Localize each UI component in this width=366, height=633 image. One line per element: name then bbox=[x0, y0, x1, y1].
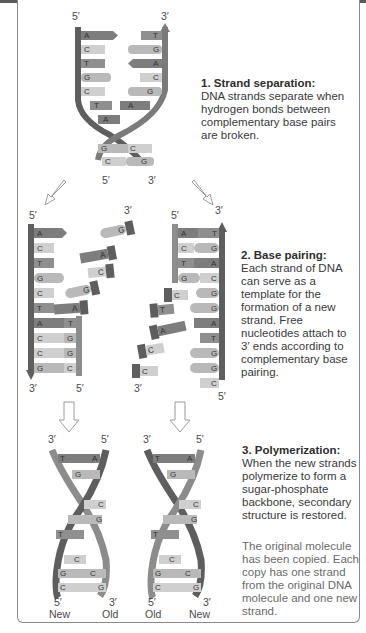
svg-text:T: T bbox=[94, 101, 99, 110]
svg-text:G: G bbox=[153, 45, 159, 54]
stage3-right-old-label: Old bbox=[145, 608, 162, 620]
svg-text:A: A bbox=[103, 115, 109, 124]
svg-text:G: G bbox=[96, 515, 102, 524]
svg-text:G: G bbox=[211, 349, 217, 358]
svg-text:A: A bbox=[211, 319, 217, 328]
arrow-down-right-icon bbox=[170, 402, 190, 432]
svg-text:C: C bbox=[84, 87, 90, 96]
svg-text:C: C bbox=[181, 244, 187, 253]
svg-text:G: G bbox=[67, 349, 73, 358]
svg-text:A: A bbox=[153, 59, 159, 68]
stage3-left-old-label: Old bbox=[102, 608, 119, 620]
stage3-right-three-prime: 3′ bbox=[143, 433, 151, 445]
stage1-molecule: 5′ 3′ A C T G C T T G A C G A A G C C G … bbox=[72, 10, 170, 186]
svg-text:A: A bbox=[211, 259, 217, 268]
svg-text:T: T bbox=[153, 530, 158, 539]
svg-text:C: C bbox=[84, 45, 90, 54]
stage3-left-new-label: New bbox=[49, 608, 70, 620]
svg-text:G: G bbox=[75, 470, 81, 479]
svg-text:G: G bbox=[211, 244, 217, 253]
svg-text:C: C bbox=[211, 379, 217, 388]
svg-text:G: G bbox=[60, 569, 66, 578]
svg-text:G: G bbox=[211, 364, 217, 373]
stage3-left-bottom-five-prime: 5′ bbox=[54, 596, 62, 608]
svg-text:C: C bbox=[37, 349, 43, 358]
svg-text:G: G bbox=[181, 274, 187, 283]
svg-text:T: T bbox=[212, 229, 217, 238]
svg-text:A: A bbox=[181, 229, 187, 238]
svg-text:C: C bbox=[130, 144, 136, 153]
stage2-left-bottom-three-prime: 3′ bbox=[29, 382, 37, 394]
stage3-left-three-prime: 3′ bbox=[48, 433, 56, 445]
svg-text:C: C bbox=[37, 244, 43, 253]
stage2-left-three-prime: 3′ bbox=[124, 204, 132, 216]
stage1-bottom-three-prime-label: 3′ bbox=[148, 174, 156, 186]
svg-text:G: G bbox=[98, 583, 104, 592]
stage2-left-five-prime: 5′ bbox=[29, 209, 37, 221]
stage1-bottom-five-prime-label: 5′ bbox=[102, 174, 110, 186]
svg-text:G: G bbox=[37, 274, 43, 283]
svg-text:C: C bbox=[211, 274, 217, 283]
stage2-right-bottom-three-prime: 3′ bbox=[134, 382, 142, 394]
svg-text:C: C bbox=[37, 289, 43, 298]
stage1-three-prime-label: 3′ bbox=[161, 10, 169, 22]
svg-text:G: G bbox=[147, 87, 153, 96]
svg-text:T: T bbox=[181, 259, 186, 268]
svg-text:C: C bbox=[98, 500, 104, 509]
svg-text:C: C bbox=[169, 555, 175, 564]
svg-text:C: C bbox=[185, 569, 191, 578]
stage2-right-three-prime: 3′ bbox=[215, 204, 223, 216]
stage2-left-strand: 5′ 3′ A C T G C T A C C G T G G C 3′ 5′ … bbox=[26, 204, 135, 394]
stage3-right-bottom-five-prime: 5′ bbox=[148, 596, 156, 608]
svg-text:A: A bbox=[37, 229, 43, 238]
svg-text:T: T bbox=[160, 306, 166, 315]
svg-text:G: G bbox=[37, 364, 43, 373]
svg-text:T: T bbox=[68, 319, 73, 328]
svg-text:T: T bbox=[37, 304, 42, 313]
arrow-right-down-icon bbox=[192, 180, 213, 205]
svg-text:T: T bbox=[58, 530, 63, 539]
svg-text:G: G bbox=[211, 304, 217, 313]
step1-caption: 1. Strand separation: DNA strands separa… bbox=[201, 77, 351, 142]
svg-text:G: G bbox=[101, 144, 107, 153]
svg-text:A: A bbox=[84, 31, 90, 40]
step3-caption: 3. Polymerization: When the new strands … bbox=[242, 444, 357, 522]
arrow-down-left-icon bbox=[59, 402, 79, 432]
stage3-left-helix: 3′ 5′ TA G C G T C GC CG 5′ 3′ New Old bbox=[48, 433, 119, 620]
conclusion-text: The original molecule has been copied. E… bbox=[242, 540, 359, 617]
svg-text:T: T bbox=[37, 259, 42, 268]
step2-body: Each strand of DNA can serve as a templa… bbox=[241, 262, 348, 378]
svg-text:C: C bbox=[155, 583, 161, 592]
conclusion-caption: The original molecule has been copied. E… bbox=[242, 540, 360, 618]
step1-body: DNA strands separate when hydrogen bonds… bbox=[201, 90, 344, 141]
svg-text:G: G bbox=[155, 569, 161, 578]
svg-text:A: A bbox=[187, 454, 193, 463]
stage2-right-five-prime: 5′ bbox=[171, 209, 179, 221]
step3-body: When the new strands polymerize to form … bbox=[242, 457, 356, 521]
svg-text:G: G bbox=[211, 289, 217, 298]
svg-text:G: G bbox=[141, 157, 147, 166]
svg-text:C: C bbox=[74, 555, 80, 564]
step2-caption: 2. Base pairing: Each strand of DNA can … bbox=[241, 249, 356, 379]
stage3-right-bottom-three-prime: 3′ bbox=[203, 596, 211, 608]
svg-text:C: C bbox=[174, 291, 180, 300]
stage2-right-strand: 5′ 3′ A T C G T A G C G G A T G G C 5′ C… bbox=[132, 204, 227, 402]
stage3-left-five-prime: 5′ bbox=[101, 433, 109, 445]
svg-text:C: C bbox=[60, 583, 66, 592]
svg-text:T: T bbox=[153, 31, 158, 40]
svg-text:A: A bbox=[37, 319, 43, 328]
svg-text:T: T bbox=[84, 59, 89, 68]
stage2-left-bottom-five-prime: 5′ bbox=[76, 382, 84, 394]
svg-text:T: T bbox=[155, 454, 160, 463]
svg-text:C: C bbox=[142, 367, 148, 376]
svg-text:C: C bbox=[37, 334, 43, 343]
svg-text:C: C bbox=[193, 500, 199, 509]
stage2-right-bottom-five-prime: 5′ bbox=[218, 390, 226, 402]
stage3-right-helix: 3′ 5′ TA G C G T C GC CG 5′ 3′ Old New bbox=[143, 433, 211, 620]
svg-text:G: G bbox=[84, 73, 90, 82]
stage3-right-five-prime: 5′ bbox=[196, 433, 204, 445]
svg-text:C: C bbox=[90, 569, 96, 578]
svg-text:T: T bbox=[60, 454, 65, 463]
svg-text:G: G bbox=[191, 515, 197, 524]
svg-text:A: A bbox=[128, 101, 134, 110]
